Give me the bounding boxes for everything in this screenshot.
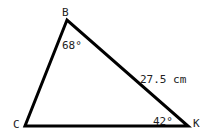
angle-k-label: 42° bbox=[153, 115, 173, 128]
triangle-diagram: B C K 68° 42° 27.5 cm bbox=[0, 0, 208, 140]
vertex-c-label: C bbox=[13, 118, 20, 131]
side-bk-label: 27.5 cm bbox=[140, 73, 187, 86]
angle-b-label: 68° bbox=[62, 39, 82, 52]
vertex-b-label: B bbox=[62, 6, 69, 19]
vertex-k-label: K bbox=[193, 117, 200, 130]
